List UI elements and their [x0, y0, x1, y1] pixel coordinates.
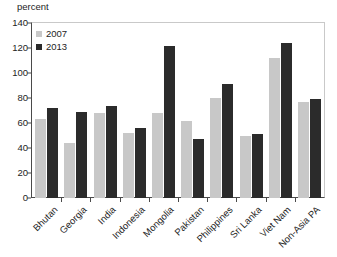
bar	[210, 98, 221, 198]
bar-group	[298, 23, 321, 198]
bar	[269, 58, 280, 198]
x-axis-tick-mark	[90, 198, 91, 202]
y-axis-tick-mark	[27, 173, 31, 174]
x-axis-tick-mark	[236, 198, 237, 202]
bar-group	[64, 23, 87, 198]
bar	[152, 113, 163, 198]
x-axis-category-label: India	[95, 204, 117, 226]
bar	[135, 128, 146, 198]
bar-group	[240, 23, 263, 198]
y-axis-unit-label: percent	[17, 1, 49, 12]
y-axis-tick-mark	[27, 98, 31, 99]
y-axis-tick-label: 100	[12, 68, 28, 78]
bar-group	[123, 23, 146, 198]
bar	[281, 43, 292, 198]
bar	[64, 143, 75, 198]
bar	[240, 136, 251, 199]
bar-group	[269, 23, 292, 198]
bar	[35, 119, 46, 198]
x-axis-tick-mark	[120, 198, 121, 202]
bar	[193, 139, 204, 198]
y-axis-tick-label: 140	[12, 18, 28, 28]
x-axis-category-label: Georgia	[57, 204, 89, 236]
bar	[123, 133, 134, 198]
bar	[76, 112, 87, 198]
x-axis-tick-mark	[178, 198, 179, 202]
bar	[47, 108, 58, 198]
bar-group	[94, 23, 117, 198]
bar	[298, 102, 309, 198]
bar	[222, 84, 233, 198]
bar	[252, 134, 263, 198]
y-axis-tick-mark	[27, 198, 31, 199]
bar	[94, 113, 105, 198]
y-axis-tick-label: 120	[12, 43, 28, 53]
y-axis-tick-mark	[27, 48, 31, 49]
bar	[164, 46, 175, 199]
y-axis-tick-mark	[27, 148, 31, 149]
bar-group	[181, 23, 204, 198]
y-axis-tick-mark	[27, 123, 31, 124]
y-axis-tick-mark	[27, 23, 31, 24]
x-axis-tick-mark	[149, 198, 150, 202]
x-axis-tick-mark	[61, 198, 62, 202]
bar-chart: percent 020406080100120140 20072013 Bhut…	[0, 0, 337, 257]
bar	[181, 121, 192, 199]
x-axis-category-label: Mongolia	[141, 204, 176, 239]
bar-group	[35, 23, 58, 198]
x-axis-category-label: Bhutan	[30, 204, 59, 233]
x-axis-tick-mark	[295, 198, 296, 202]
bars-layer	[32, 23, 324, 198]
bar	[310, 99, 321, 198]
x-axis-tick-mark	[266, 198, 267, 202]
x-axis-tick-mark	[207, 198, 208, 202]
y-axis-tick-mark	[27, 73, 31, 74]
bar-group	[210, 23, 233, 198]
bar	[106, 106, 117, 199]
bar-group	[152, 23, 175, 198]
